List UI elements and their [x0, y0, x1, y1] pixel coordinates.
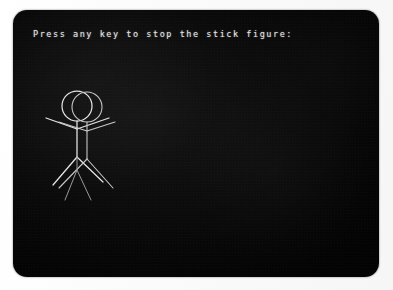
stick-figure-leg-left	[65, 170, 77, 200]
terminal-screen[interactable]: Press any key to stop the stick figure:	[13, 10, 379, 277]
stick-figure-leg-left	[53, 157, 77, 185]
screenshot-page: Press any key to stop the stick figure:	[0, 0, 393, 290]
stick-figure-frame-b	[59, 92, 115, 188]
stick-figure-canvas	[13, 10, 379, 277]
stick-figure-leg-right	[77, 170, 91, 200]
stick-figure-leg-right	[87, 159, 113, 188]
stick-figure-arm-right	[87, 122, 115, 131]
